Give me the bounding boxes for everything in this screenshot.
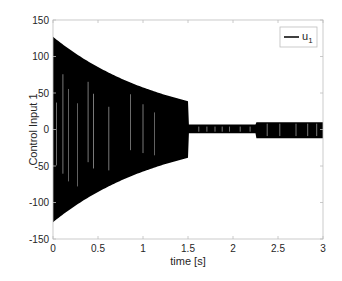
y-tick-label: 100 bbox=[32, 51, 49, 62]
figure: 00.511.522.53 -150-100-50050100150 time … bbox=[0, 0, 342, 281]
x-tick-label: 3 bbox=[320, 243, 326, 254]
x-tick-label: 1.5 bbox=[181, 243, 195, 254]
y-tick-label: 0 bbox=[43, 124, 49, 135]
x-axis-label: time [s] bbox=[170, 255, 205, 267]
y-axis-label: Control Input 1 bbox=[27, 93, 39, 165]
y-tick-label: -100 bbox=[29, 197, 49, 208]
x-tick-label: 1 bbox=[140, 243, 146, 254]
y-tick-label: 150 bbox=[32, 15, 49, 26]
y-tick-label: 50 bbox=[38, 88, 50, 99]
x-tick-label: 2.5 bbox=[271, 243, 285, 254]
x-tick-label: 2 bbox=[230, 243, 236, 254]
plot-area bbox=[53, 20, 323, 239]
y-tick-label: -150 bbox=[29, 234, 49, 245]
legend-label-subscript: 1 bbox=[308, 36, 313, 45]
legend[interactable]: u1 bbox=[280, 27, 317, 47]
x-tick-label: 0.5 bbox=[91, 243, 105, 254]
x-tick-label: 0 bbox=[50, 243, 56, 254]
